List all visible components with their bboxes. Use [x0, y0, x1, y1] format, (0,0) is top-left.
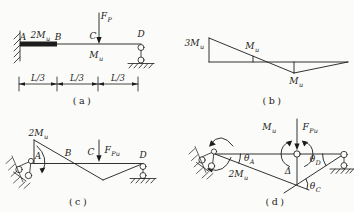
angle-arc-theta-a	[239, 154, 241, 163]
text-base: F	[303, 122, 309, 132]
delta-label: Δ	[285, 167, 292, 176]
pin-support-a-d	[189, 147, 217, 180]
text-base: 2M	[228, 169, 243, 179]
text-sub: u	[46, 34, 50, 42]
text-sub: P	[107, 15, 111, 23]
point-label-c-A: A	[35, 152, 42, 161]
moment-label-3mu: 3Mu	[184, 39, 203, 48]
moment-label-mu-mid: Mu	[245, 42, 258, 51]
roller-support-d-c	[130, 164, 156, 184]
text-base: θ	[244, 153, 249, 163]
text-sub: C	[316, 185, 321, 193]
caption-d: (d)	[264, 197, 287, 207]
point-label-a-B: B	[55, 33, 62, 42]
text-sub: u	[44, 132, 48, 140]
dim-label-2: L/3	[70, 74, 84, 83]
angle-arc-theta-d	[322, 154, 325, 166]
moment-label-mu-d: Mu	[262, 123, 275, 132]
point-label-c-C: C	[88, 148, 95, 157]
text-sub: u	[299, 80, 303, 88]
caption-a: (a)	[71, 96, 94, 106]
point-label-a-A: A	[20, 33, 27, 42]
text-sub: u	[200, 42, 204, 50]
mechanics-figure: A 2Mu B C D FP Mu L/3 L/3 L/3 (a) 3Mu Mu…	[0, 0, 354, 212]
roller-support-d	[128, 45, 154, 69]
roller-support-d-d	[330, 151, 354, 173]
text-sub: Pu	[309, 126, 318, 134]
point-label-a-D: D	[137, 30, 144, 39]
text-sub: u	[255, 45, 259, 53]
moment-label-2mu-d: 2Mu	[228, 170, 247, 179]
angle-label-theta-a: θA	[244, 154, 254, 163]
text-base: θ	[310, 181, 315, 191]
diagram-slope-right	[103, 164, 143, 181]
point-label-c-B: B	[65, 149, 72, 158]
bmd-slope-right	[294, 62, 348, 73]
text-base: 3M	[184, 38, 199, 48]
force-label-fpu-d: FPu	[303, 123, 318, 132]
text-sub: D	[316, 158, 321, 166]
dim-label-1: L/3	[31, 74, 45, 83]
text-sub: u	[244, 173, 248, 181]
caption-b: (b)	[261, 96, 284, 106]
text-base: θ	[310, 154, 315, 164]
text-base: M	[245, 41, 254, 51]
text-base: 2M	[30, 30, 45, 40]
text-base: M	[89, 50, 98, 60]
moment-label-mu-c: Mu	[89, 51, 102, 60]
angle-arc-theta-c	[306, 179, 308, 189]
text-base: F	[105, 145, 111, 155]
text-sub: u	[99, 54, 103, 62]
point-label-a-C: C	[90, 32, 97, 41]
angle-label-theta-c: θC	[310, 182, 320, 191]
figure-c-lines	[6, 140, 156, 189]
beam-thick-segment	[20, 42, 57, 47]
dim-label-3: L/3	[111, 74, 125, 83]
text-base: M	[262, 122, 271, 132]
diagram-linework	[0, 0, 354, 212]
angle-label-theta-d: θD	[310, 155, 321, 164]
moment-label-2mu-ab: 2Mu	[30, 31, 49, 40]
figure-b-lines	[209, 38, 348, 73]
text-sub: A	[250, 157, 255, 165]
pin-support-a-c	[6, 156, 34, 189]
hinge-circle-c	[294, 151, 300, 157]
force-arrow-fpu-d	[294, 119, 299, 150]
moment-label-mu-min: Mu	[289, 77, 302, 86]
text-base: 2M	[28, 128, 43, 138]
force-label-fp: FP	[101, 12, 112, 21]
moment-label-2mu-c: 2Mu	[28, 129, 47, 138]
force-arrow-fpu-c	[96, 140, 101, 162]
text-sub: u	[272, 126, 276, 134]
text-sub: Pu	[111, 149, 120, 157]
text-base: M	[289, 76, 298, 86]
text-base: F	[101, 11, 107, 21]
caption-c: (c)	[67, 197, 89, 207]
point-label-c-D: D	[139, 151, 146, 160]
force-label-fpu-c: FPu	[105, 146, 120, 155]
